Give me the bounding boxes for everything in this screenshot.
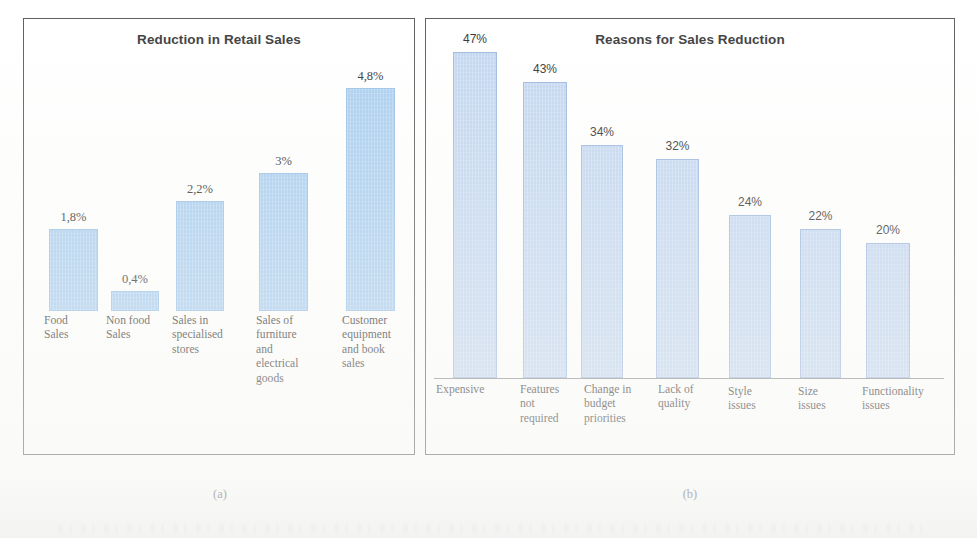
label-line: Expensive <box>436 383 512 397</box>
chart-panel-a: Reduction in Retail Sales 1,8% 0,4% 2,2%… <box>23 18 415 455</box>
bar-features-not-required <box>523 82 567 378</box>
bar-value-label: 1,8% <box>49 210 98 225</box>
label-line: Sales <box>106 328 176 342</box>
label-line: Food <box>44 314 104 328</box>
category-label-sales-furniture-electrical: Sales of furniture and electrical goods <box>256 314 326 386</box>
plot-area-b: 47% 43% 34% 32% 24% 22% 20% Expensive Fe… <box>426 19 954 454</box>
label-line: Change in <box>584 383 656 397</box>
label-line: Lack of <box>658 383 720 397</box>
bar-expensive <box>453 52 497 378</box>
bar-sales-specialised-stores <box>176 201 224 311</box>
label-line: issues <box>728 399 784 413</box>
label-line: not <box>520 397 582 411</box>
bar-value-label: 43% <box>523 62 567 76</box>
label-line: Features <box>520 383 582 397</box>
label-line: and <box>256 343 326 357</box>
label-line: stores <box>172 343 252 357</box>
category-label-lack-of-quality: Lack of quality <box>658 383 720 412</box>
label-line: Sales of <box>256 314 326 328</box>
bar-size-issues <box>800 229 841 378</box>
category-label-non-food-sales: Non food Sales <box>106 314 176 343</box>
chart-panel-b: Reasons for Sales Reduction 47% 43% 34% … <box>425 18 955 455</box>
bar-value-label: 34% <box>581 125 623 139</box>
category-label-functionality-issues: Functionality issues <box>862 385 948 414</box>
label-line: equipment <box>342 328 416 342</box>
x-axis-line <box>434 378 944 379</box>
scan-artifact-bottom <box>58 524 928 533</box>
label-line: Sales <box>44 328 104 342</box>
label-line: furniture <box>256 328 326 342</box>
label-line: Non food <box>106 314 176 328</box>
bar-style-issues <box>729 215 771 378</box>
bar-value-label: 22% <box>800 209 841 223</box>
bar-sales-furniture-electrical <box>259 173 308 311</box>
bar-food-sales <box>49 229 98 311</box>
bar-non-food-sales <box>111 291 159 311</box>
figure-caption-b: (b) <box>660 487 720 502</box>
bar-customer-equipment-book <box>346 88 395 311</box>
category-label-customer-equipment-book: Customer equipment and book sales <box>342 314 416 372</box>
label-line: Customer <box>342 314 416 328</box>
bar-value-label: 2,2% <box>176 182 224 197</box>
bar-value-label: 32% <box>656 139 699 153</box>
label-line: sales <box>342 357 416 371</box>
category-label-features-not-required: Features not required <box>520 383 582 426</box>
label-line: budget <box>584 397 656 411</box>
label-line: required <box>520 412 582 426</box>
bar-value-label: 47% <box>453 32 497 46</box>
label-line: electrical <box>256 357 326 371</box>
label-line: specialised <box>172 328 252 342</box>
bar-value-label: 4,8% <box>346 69 395 84</box>
plot-area-a: 1,8% 0,4% 2,2% 3% 4,8% Food Sales Non fo… <box>24 19 414 454</box>
label-line: and book <box>342 343 416 357</box>
bar-functionality-issues <box>866 243 910 378</box>
label-line: Size <box>798 385 854 399</box>
category-label-food-sales: Food Sales <box>44 314 104 343</box>
label-line: Sales in <box>172 314 252 328</box>
bar-value-label: 20% <box>866 223 910 237</box>
bar-value-label: 24% <box>729 195 771 209</box>
label-line: quality <box>658 397 720 411</box>
category-label-change-in-budget-priorities: Change in budget priorities <box>584 383 656 426</box>
category-label-size-issues: Size issues <box>798 385 854 414</box>
bar-change-in-budget-priorities <box>581 145 623 378</box>
figure-caption-a: (a) <box>190 487 250 502</box>
label-line: issues <box>862 399 948 413</box>
label-line: Functionality <box>862 385 948 399</box>
category-label-sales-specialised-stores: Sales in specialised stores <box>172 314 252 357</box>
category-label-expensive: Expensive <box>436 383 512 397</box>
bar-value-label: 3% <box>259 154 308 169</box>
label-line: issues <box>798 399 854 413</box>
label-line: Style <box>728 385 784 399</box>
category-label-style-issues: Style issues <box>728 385 784 414</box>
bar-lack-of-quality <box>656 159 699 378</box>
label-line: priorities <box>584 412 656 426</box>
bar-value-label: 0,4% <box>111 272 159 287</box>
label-line: goods <box>256 372 326 386</box>
